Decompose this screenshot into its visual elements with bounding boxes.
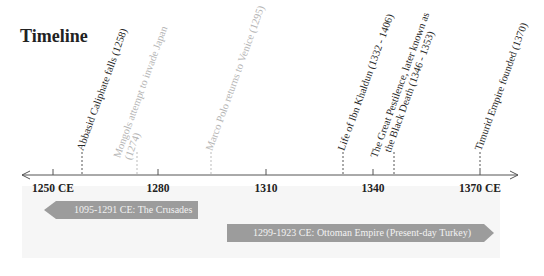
era-label: 1095-1291 CE: The Crusades	[74, 201, 192, 219]
tick-label-1250: 1250 CE	[32, 182, 74, 194]
era-crusades: 1095-1291 CE: The Crusades	[56, 201, 198, 219]
tick-label-1370: 1370 CE	[459, 182, 501, 194]
tick-label-1280: 1280	[147, 182, 170, 194]
tick-label-1310: 1310	[255, 182, 278, 194]
era-ottoman: 1299-1923 CE: Ottoman Empire (Present-da…	[227, 224, 484, 242]
era-label: 1299-1923 CE: Ottoman Empire (Present-da…	[253, 224, 471, 242]
tick-label-1340: 1340	[362, 182, 385, 194]
